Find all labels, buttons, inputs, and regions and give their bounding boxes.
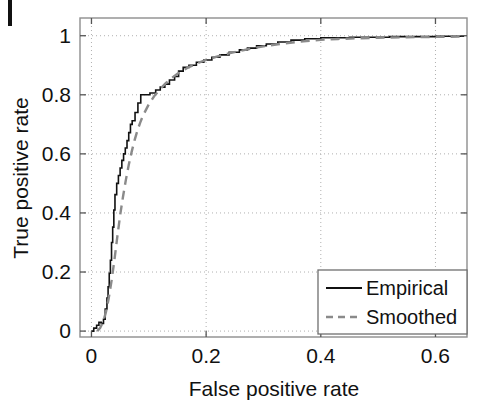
- legend-label-smoothed: Smoothed: [366, 306, 457, 328]
- y-tick-label: 0.4: [42, 201, 72, 224]
- chart-legend[interactable]: Empirical Smoothed: [318, 270, 467, 334]
- y-tick-label: 0.8: [42, 83, 71, 106]
- y-tick-label: 0.2: [42, 260, 71, 283]
- x-tick-label: 0.4: [306, 344, 336, 367]
- roc-curve-figure: 00.20.40.6 00.20.40.60.81 False positive…: [0, 0, 497, 405]
- roc-plot-svg: 00.20.40.6 00.20.40.60.81 False positive…: [0, 0, 497, 405]
- y-tick-label: 0: [59, 319, 71, 342]
- x-tick-label: 0.2: [192, 344, 221, 367]
- y-tick-label: 1: [59, 24, 71, 47]
- y-axis-title: True positive rate: [9, 97, 32, 258]
- legend-label-empirical: Empirical: [366, 277, 448, 299]
- y-tick-label: 0.6: [42, 142, 71, 165]
- x-axis-title: False positive rate: [189, 377, 359, 400]
- scan-artifact-mark: [8, 0, 12, 26]
- x-tick-label: 0: [86, 344, 98, 367]
- x-tick-label: 0.6: [421, 344, 450, 367]
